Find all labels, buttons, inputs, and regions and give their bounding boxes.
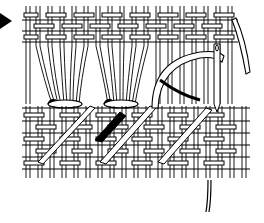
- hemstitch-illustration: Hemstitch embroidery illustration: [0, 0, 264, 223]
- pointer-arrow-icon: [0, 13, 12, 29]
- woven-fabric-top-band: [22, 6, 238, 46]
- needle-icon: [214, 44, 220, 112]
